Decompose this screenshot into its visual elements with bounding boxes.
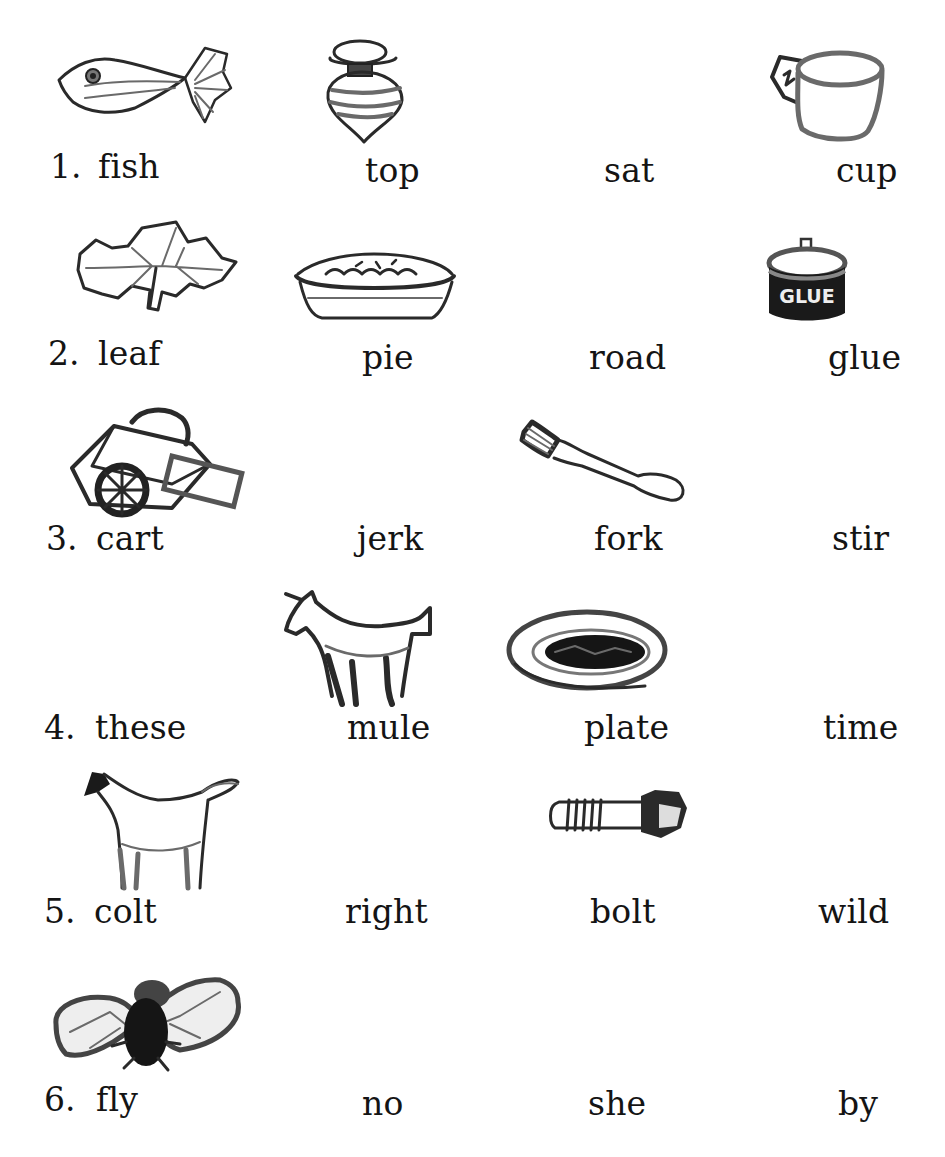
row-5-number: 5. [44,892,76,932]
row-6-word-2: no [362,1084,404,1124]
row-5-word-3: bolt [590,892,656,932]
row-2-word-4: glue [828,338,901,378]
cart-icon [62,404,247,514]
row-4-word-3: plate [584,708,669,748]
row-2-number: 2. [48,334,80,374]
glue-jar-label: GLUE [779,285,834,307]
row-4-number: 4. [44,708,76,748]
row-6-word-4: by [838,1084,878,1124]
row-3-word-2: jerk [357,519,423,559]
pie-icon [292,248,457,323]
row-4-word-4: time [823,708,898,748]
row-3-word-4: stir [832,519,889,559]
row-2-word-1: leaf [98,334,161,374]
phonics-worksheet: 1. fish top sat cup [0,0,945,1157]
plate-icon [505,608,670,698]
row-3-word-3: fork [594,519,663,559]
row-5-word-1: colt [94,892,157,932]
bolt-icon [545,788,690,848]
row-5-word-2: right [345,892,428,932]
fork-icon [518,418,693,508]
worksheet-row-6: 6. fly no she by [0,0,945,185]
row-2-word-3: road [589,338,666,378]
row-5-word-4: wild [818,892,889,932]
colt-icon [78,770,243,895]
row-4-word-2: mule [347,708,430,748]
leaf-icon [72,218,242,313]
row-3-number: 3. [46,519,78,559]
row-4-word-1: these [95,708,187,748]
mule-icon [282,586,437,711]
row-6-word-1: fly [96,1080,138,1120]
row-6-number: 6. [44,1080,76,1120]
row-6-word-3: she [588,1084,646,1124]
fly-icon [50,972,245,1072]
glue-jar-icon: GLUE [765,237,850,327]
row-3-word-1: cart [96,519,164,559]
row-2-word-2: pie [362,338,414,378]
